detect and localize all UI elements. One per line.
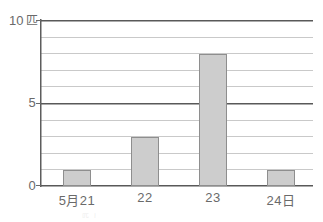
y-tick-5 [36, 103, 41, 104]
gridline-5 [41, 103, 313, 104]
y-axis-bottom-label: 0 [6, 178, 36, 193]
gridline-3 [41, 136, 313, 137]
gridline-7 [41, 70, 313, 71]
bar-23 [199, 54, 227, 186]
bar-22 [131, 137, 159, 187]
x-axis-label-2: 23 [177, 190, 249, 205]
bar-5gatsu-21 [63, 170, 91, 187]
bar-24nichi [267, 170, 295, 187]
x-axis-labels: 5月21 22 23 24日 [41, 190, 313, 210]
bar-chart: 10匹 5 0 5月21 22 23 24日 匹 しら [0, 0, 323, 222]
gridline-8 [41, 53, 313, 54]
gridline-6 [41, 86, 313, 87]
gridline-4 [41, 120, 313, 121]
x-axis-label-0: 5月21 [41, 190, 113, 209]
y-axis-top-label: 10匹 [0, 11, 38, 28]
x-axis-label-1: 22 [109, 190, 181, 205]
y-axis-mid-label: 5 [6, 95, 36, 110]
y-tick-0 [36, 185, 41, 186]
y-axis-top-value: 10 [9, 13, 24, 28]
gridline-9 [41, 37, 313, 38]
gridline-10 [41, 20, 313, 21]
x-axis-label-3: 24日 [245, 190, 317, 209]
plot-area [41, 20, 313, 186]
gridline-2 [41, 153, 313, 154]
scan-artifact: 匹 しら [82, 211, 108, 218]
y-axis-unit-label: 匹 [26, 14, 38, 28]
